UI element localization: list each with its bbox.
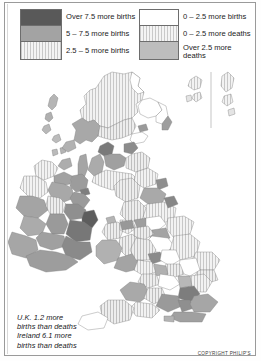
note-line-ireland-value: Ireland 6.1 more [17,331,77,340]
choropleth-map [8,62,253,332]
map-region-durham [140,188,166,204]
map-region-dorset [130,302,160,318]
legend-swatch-5-to-7-5-more-births [21,26,61,42]
map-region-sussex [170,312,206,322]
map-region-argyll [72,118,100,144]
map-region-limerick-tipperary [36,232,66,250]
map-region-outer-hebrides [42,94,66,156]
map-region-dundee [138,124,148,132]
legend-label-5-to-7-5-more-births: 5 – 7.5 more births [66,26,135,43]
map-region-isle-of-wight [164,316,174,322]
copyright-notice: COPYRIGHT PHILIP'S [198,351,251,356]
legend-swatch-2-5-to-5-more-births [21,42,61,59]
note-line-ireland-text: births than deaths [17,341,77,350]
legend-label-0-to-2-5-more-births: 0 – 2.5 more births [183,9,255,26]
map-region-hertfordshire [178,276,192,288]
legend-label-over-7-5-more-births: Over 7.5 more births [66,9,135,26]
map-page: Over 7.5 more births 5 – 7.5 more births… [0,0,261,361]
map-inset-orkney [186,76,202,102]
legend-labels-left: Over 7.5 more births 5 – 7.5 more births… [66,9,135,60]
legend-swatches-right [139,9,179,60]
legend-swatch-0-to-2-5-more-deaths [140,26,178,42]
legend-label-over-2-5-more-deaths: Over 2.5 more deaths [183,43,255,61]
legend-swatch-over-2-5-more-deaths [140,42,178,59]
map-region-islay-jura [58,158,72,170]
legend-swatch-stack-left [20,9,62,60]
map-region-leicestershire [160,250,180,266]
legend-label-0-to-2-5-more-deaths: 0 – 2.5 more deaths [183,26,255,43]
legend-swatch-over-7-5-more-births [21,10,61,26]
note-line-uk-value: U.K. 1.2 more [17,313,77,322]
national-summary-note: U.K. 1.2 more births than deaths Ireland… [17,313,77,350]
map-region-merseyside [120,220,134,230]
map-region-offaly-laois [46,214,68,234]
legend-swatch-stack-right [139,9,179,60]
map-legend: Over 7.5 more births 5 – 7.5 more births… [0,0,261,68]
map-svg [8,62,253,332]
legend-swatches-left [20,9,62,60]
legend-label-2-5-to-5-more-births: 2.5 – 5 more births [66,43,135,60]
map-region-lanarkshire [104,154,126,170]
map-inset-shetland [221,72,235,116]
note-line-uk-text: births than deaths [17,322,77,331]
legend-labels-right: 0 – 2.5 more births 0 – 2.5 more deaths … [183,9,255,61]
map-region-galway [16,196,48,218]
legend-swatch-0-to-2-5-more-births [140,10,178,26]
map-region-kent [190,294,218,312]
